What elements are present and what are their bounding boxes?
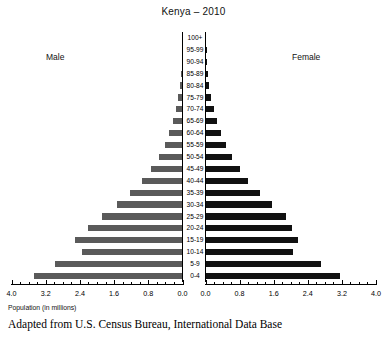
axis-tick-label: 3.2	[331, 289, 353, 298]
female-bar	[206, 237, 298, 243]
axis-tick-minor	[325, 282, 326, 285]
axis-tick-minor	[231, 282, 232, 285]
age-group-axis: 100+95-9990-9485-8980-8475-7970-7465-696…	[182, 32, 206, 282]
source-note: Adapted from U.S. Census Bureau, Interna…	[8, 318, 282, 330]
axis-tick-major	[376, 280, 377, 285]
age-group-label: 95-99	[183, 44, 207, 56]
axis-tick-minor	[248, 282, 249, 285]
female-bar	[206, 130, 222, 136]
female-bar	[206, 142, 226, 148]
age-group-label: 35-39	[183, 187, 207, 199]
female-bar	[206, 178, 249, 184]
axis-tick-minor	[257, 282, 258, 285]
axis-tick-minor	[367, 282, 368, 285]
age-group-label: 55-59	[183, 139, 207, 151]
age-group-label: 70-74	[183, 103, 207, 115]
axis-tick-minor	[88, 282, 89, 285]
age-group-label: 30-34	[183, 199, 207, 211]
age-group-label: 0-4	[183, 270, 207, 282]
axis-tick-label: 1.6	[263, 289, 285, 298]
axis-tick-label: 0.0	[195, 289, 217, 298]
age-group-label: 65-69	[183, 115, 207, 127]
axis-tick-label: 2.4	[297, 289, 319, 298]
axis-tick-minor	[299, 282, 300, 285]
female-bar	[206, 225, 292, 231]
axis-tick-minor	[265, 282, 266, 285]
axis-tick-minor	[214, 282, 215, 285]
age-group-label: 45-49	[183, 163, 207, 175]
x-axis-caption: Population (in millions)	[8, 304, 76, 311]
female-bar	[206, 249, 293, 255]
axis-tick-minor	[316, 282, 317, 285]
axis-tick-minor	[131, 282, 132, 285]
axis-tick-minor	[350, 282, 351, 285]
axis-tick-minor	[165, 282, 166, 285]
axis-tick-label: 4.0	[365, 289, 387, 298]
axis-tick-minor	[20, 282, 21, 285]
axis-tick-major	[342, 280, 343, 285]
age-group-label: 60-64	[183, 127, 207, 139]
axis-tick-major	[148, 280, 149, 285]
axis-tick-minor	[140, 282, 141, 285]
axis-tick-minor	[106, 282, 107, 285]
axis-tick-major	[183, 280, 184, 285]
axis-tick-minor	[359, 282, 360, 285]
chart-title: Kenya – 2010	[0, 6, 387, 17]
axis-tick-minor	[123, 282, 124, 285]
female-bar	[206, 154, 232, 160]
axis-tick-label: 1.6	[103, 289, 125, 298]
age-group-label: 15-19	[183, 234, 207, 246]
axis-tick-label: 0.8	[229, 289, 251, 298]
axis-tick-major	[80, 280, 81, 285]
age-group-label: 100+	[183, 32, 207, 44]
age-group-label: 50-54	[183, 151, 207, 163]
axis-tick-label: 0.0	[172, 289, 194, 298]
age-group-label: 85-89	[183, 68, 207, 80]
axis-tick-minor	[223, 282, 224, 285]
age-group-label: 20-24	[183, 222, 207, 234]
axis-tick-minor	[63, 282, 64, 285]
axis-tick-label: 0.8	[137, 289, 159, 298]
axis-tick-major	[206, 280, 207, 285]
age-group-label: 5-9	[183, 258, 207, 270]
plot-area: Male Female 100+95-9990-9485-8980-8475-7…	[0, 32, 387, 282]
female-bar	[206, 166, 240, 172]
axis-tick-minor	[37, 282, 38, 285]
female-bar	[206, 118, 218, 124]
age-group-label: 75-79	[183, 92, 207, 104]
axis-tick-minor	[333, 282, 334, 285]
age-group-label: 10-14	[183, 246, 207, 258]
age-group-label: 25-29	[183, 211, 207, 223]
axis-tick-major	[46, 280, 47, 285]
axis-tick-minor	[54, 282, 55, 285]
female-bar	[206, 213, 286, 219]
female-bar	[206, 261, 322, 267]
axis-tick-label: 3.2	[35, 289, 57, 298]
axis-tick-minor	[97, 282, 98, 285]
axis-tick-label: 4.0	[1, 289, 23, 298]
axis-tick-minor	[291, 282, 292, 285]
axis-tick-minor	[29, 282, 30, 285]
age-group-label: 90-94	[183, 56, 207, 68]
age-group-label: 40-44	[183, 175, 207, 187]
axis-tick-major	[114, 280, 115, 285]
axis-tick-minor	[282, 282, 283, 285]
axis-tick-major	[308, 280, 309, 285]
female-bar	[206, 273, 340, 279]
axis-tick-minor	[174, 282, 175, 285]
axis-tick-minor	[157, 282, 158, 285]
axis-tick-label: 2.4	[69, 289, 91, 298]
female-bar	[206, 190, 261, 196]
axis-tick-minor	[71, 282, 72, 285]
age-group-label: 80-84	[183, 80, 207, 92]
axis-tick-major	[12, 280, 13, 285]
axis-tick-major	[274, 280, 275, 285]
female-bar	[206, 201, 272, 207]
axis-tick-major	[240, 280, 241, 285]
population-pyramid-figure: Kenya – 2010 Male Female 100+95-9990-948…	[0, 0, 387, 340]
